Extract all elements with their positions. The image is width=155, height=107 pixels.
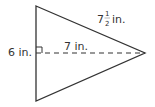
slant-unit: in. — [112, 13, 126, 26]
base-label: 6 in. — [8, 46, 32, 59]
right-angle-marker — [36, 47, 42, 53]
slant-whole: 7 — [97, 13, 104, 26]
height-label: 7 in. — [64, 40, 88, 53]
slant-label: 7 1 2 in. — [97, 10, 126, 28]
slant-denominator: 2 — [105, 20, 109, 28]
slant-numerator: 1 — [105, 10, 109, 18]
triangle-diagram: 6 in. 7 in. 7 1 2 in. — [0, 0, 155, 107]
